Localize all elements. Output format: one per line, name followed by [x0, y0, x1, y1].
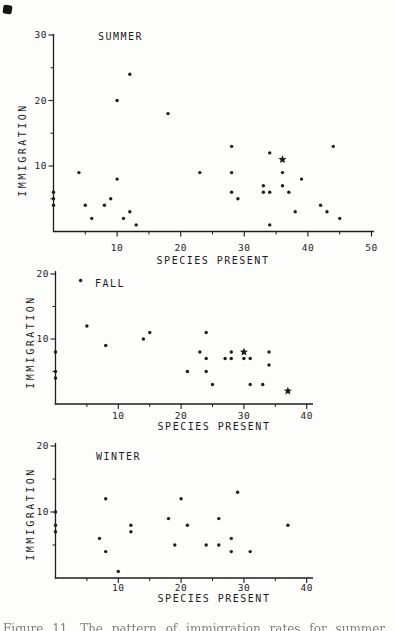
data-point	[249, 357, 252, 360]
data-point	[186, 370, 189, 373]
data-point	[54, 350, 57, 353]
data-point	[186, 524, 189, 527]
data-point	[129, 524, 132, 527]
y-tick-label: 20	[35, 95, 47, 106]
data-point	[115, 99, 118, 102]
data-point	[236, 491, 239, 494]
x-tick-label: 30	[238, 582, 250, 593]
scatter-plots-canvas: 1020304050102030102030401020102030401020	[0, 0, 396, 631]
data-point	[109, 197, 112, 200]
y-tick-label: 10	[37, 333, 49, 344]
plot-title-summer: SUMMER	[98, 31, 143, 42]
summer-plot: 1020304050102030	[35, 29, 378, 252]
data-point	[98, 537, 101, 540]
data-point	[104, 550, 107, 553]
data-point	[205, 370, 208, 373]
x-tick-label: 40	[302, 242, 314, 253]
data-point	[300, 177, 303, 180]
data-point	[262, 184, 265, 187]
data-point	[286, 524, 289, 527]
data-point	[179, 497, 182, 500]
x-axis-label-summer: SPECIES PRESENT	[157, 255, 270, 266]
data-point	[198, 171, 201, 174]
data-point	[249, 550, 252, 553]
y-tick-label: 10	[35, 160, 47, 171]
data-point	[223, 357, 226, 360]
x-tick-label: 30	[238, 242, 250, 253]
data-point	[128, 73, 131, 76]
data-point	[230, 357, 233, 360]
x-tick-label: 10	[112, 410, 124, 421]
x-tick-label: 30	[238, 410, 250, 421]
data-point	[268, 151, 271, 154]
data-point	[104, 344, 107, 347]
data-point	[148, 331, 151, 334]
star-data-point	[240, 348, 248, 356]
y-tick-label: 30	[35, 29, 47, 40]
data-point	[103, 204, 106, 207]
data-point	[54, 510, 57, 513]
star-data-point	[284, 387, 292, 395]
x-tick-label: 50	[365, 242, 377, 253]
y-tick-label: 10	[37, 506, 49, 517]
figure-panel: 1020304050102030102030401020102030401020…	[0, 0, 396, 631]
data-point	[268, 223, 271, 226]
data-point	[332, 145, 335, 148]
data-point	[230, 537, 233, 540]
data-point	[268, 191, 271, 194]
x-tick-label: 20	[175, 582, 187, 593]
winter-plot: 102030401020	[37, 440, 313, 592]
data-point	[261, 383, 264, 386]
data-point	[54, 370, 57, 373]
data-point	[104, 497, 107, 500]
fall-plot: 102030401020	[37, 268, 313, 420]
y-tick-label: 20	[37, 268, 49, 279]
data-point	[338, 217, 341, 220]
data-point	[128, 210, 131, 213]
x-axis-label-fall: SPECIES PRESENT	[158, 421, 271, 432]
data-point	[230, 171, 233, 174]
data-point	[211, 383, 214, 386]
plot-title-fall: FALL	[95, 278, 125, 289]
star-data-point	[278, 155, 286, 163]
data-point	[205, 357, 208, 360]
data-point	[294, 210, 297, 213]
data-point	[173, 543, 176, 546]
x-tick-label: 10	[112, 582, 124, 593]
data-point	[242, 357, 245, 360]
x-tick-label: 10	[111, 242, 123, 253]
data-point	[262, 191, 265, 194]
data-point	[267, 363, 270, 366]
data-point	[52, 197, 55, 200]
data-point	[84, 204, 87, 207]
y-axis-label-fall: IMMIGRATION	[25, 295, 36, 389]
data-point	[122, 217, 125, 220]
data-point	[217, 543, 220, 546]
data-point	[249, 383, 252, 386]
x-tick-label: 40	[300, 410, 312, 421]
x-tick-label: 20	[175, 410, 187, 421]
figure-caption: Figure 11. The pattern of immigration ra…	[3, 622, 395, 631]
data-point	[142, 337, 145, 340]
data-point	[129, 530, 132, 533]
data-point	[281, 171, 284, 174]
data-point	[205, 543, 208, 546]
data-point	[287, 191, 290, 194]
data-point	[54, 524, 57, 527]
data-point	[85, 324, 88, 327]
data-point	[281, 184, 284, 187]
data-point	[198, 350, 201, 353]
data-point	[135, 223, 138, 226]
data-point	[217, 517, 220, 520]
data-point	[230, 145, 233, 148]
data-point	[52, 191, 55, 194]
data-point	[325, 210, 328, 213]
data-point	[230, 550, 233, 553]
y-tick-label: 20	[37, 440, 49, 451]
plot-title-winter: WINTER	[96, 451, 141, 462]
data-point	[90, 217, 93, 220]
data-point	[267, 350, 270, 353]
data-point	[79, 279, 82, 282]
data-point	[115, 177, 118, 180]
data-point	[230, 350, 233, 353]
